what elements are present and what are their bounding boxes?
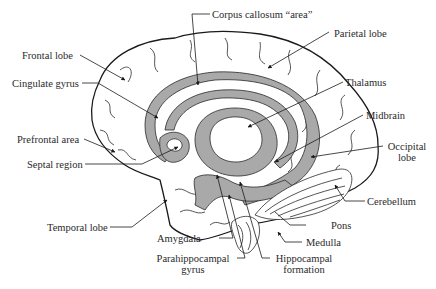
- label-parahippocampal-line2: gyrus: [150, 264, 236, 275]
- label-occipital-lobe: Occipital lobe: [386, 141, 428, 163]
- label-thalamus: Thalamus: [345, 77, 386, 88]
- label-parahippocampal-gyrus: Parahippocampal gyrus: [150, 253, 236, 275]
- label-cerebellum: Cerebellum: [367, 196, 416, 207]
- label-pons: Pons: [331, 220, 351, 231]
- label-parahippocampal-line1: Parahippocampal: [150, 253, 236, 264]
- label-cingulate-gyrus: Cingulate gyrus: [12, 78, 79, 89]
- label-medulla: Medulla: [306, 237, 341, 248]
- label-prefrontal-area: Prefrontal area: [17, 134, 79, 145]
- label-amygdala: Amygdala: [157, 233, 201, 244]
- brain-diagram: Corpus callosum “area” Frontal lobe Pari…: [0, 0, 436, 289]
- label-temporal-lobe: Temporal lobe: [47, 222, 108, 233]
- label-hippocampal-formation: Hippocampal formation: [272, 253, 336, 275]
- label-septal-region: Septal region: [27, 159, 83, 170]
- label-hippocampal-line2: formation: [272, 264, 336, 275]
- septal-detail: [167, 139, 182, 151]
- label-midbrain: Midbrain: [366, 110, 405, 121]
- label-occipital-line2: lobe: [386, 152, 428, 163]
- label-parietal-lobe: Parietal lobe: [334, 28, 387, 39]
- label-frontal-lobe: Frontal lobe: [22, 50, 73, 61]
- label-hippocampal-line1: Hippocampal: [272, 253, 336, 264]
- label-corpus-callosum: Corpus callosum “area”: [212, 9, 312, 20]
- label-occipital-line1: Occipital: [386, 141, 428, 152]
